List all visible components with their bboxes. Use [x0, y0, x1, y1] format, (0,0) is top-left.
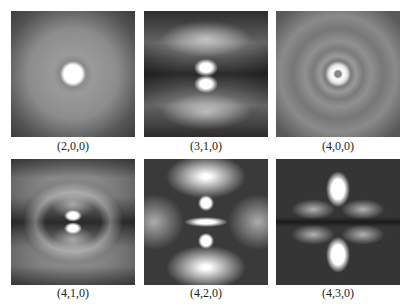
orbital-density-panel-430 — [276, 159, 400, 285]
orbital-density-panel-420 — [144, 159, 268, 285]
orbital-density-panel-200 — [11, 11, 135, 137]
orbital-density-panel-410 — [11, 159, 135, 285]
panel-label: (3,1,0) — [144, 139, 268, 154]
orbital-density-panel-310 — [144, 11, 268, 137]
panel-label: (4,1,0) — [11, 286, 135, 301]
panel-label: (4,2,0) — [144, 286, 268, 301]
panel-label: (4,0,0) — [276, 139, 400, 154]
panel-label: (2,0,0) — [11, 139, 135, 154]
orbital-density-panel-400 — [276, 11, 400, 137]
panel-label: (4,3,0) — [276, 286, 400, 301]
